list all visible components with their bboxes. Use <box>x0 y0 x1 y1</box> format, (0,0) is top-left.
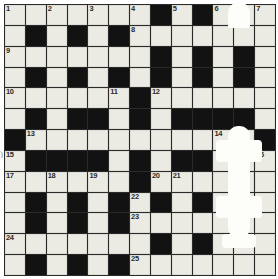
crossword-cell-open[interactable] <box>172 88 192 108</box>
crossword-cell-open[interactable] <box>130 68 150 88</box>
crossword-cell-open[interactable] <box>47 26 67 46</box>
crossword-cell-open[interactable] <box>47 255 67 275</box>
crossword-cell-open[interactable] <box>213 213 233 233</box>
crossword-cell-open[interactable] <box>255 213 275 233</box>
crossword-cell-open[interactable] <box>193 26 213 46</box>
crossword-cell-open[interactable] <box>109 172 129 192</box>
crossword-cell-open[interactable] <box>88 193 108 213</box>
crossword-cell-open[interactable] <box>213 172 233 192</box>
crossword-cell-open[interactable] <box>151 109 171 129</box>
crossword-cell-open[interactable] <box>213 88 233 108</box>
crossword-cell-open[interactable]: 6 <box>213 5 233 25</box>
crossword-cell-open[interactable] <box>172 213 192 233</box>
crossword-cell-open[interactable]: 16 <box>255 151 275 171</box>
crossword-cell-open[interactable] <box>255 26 275 46</box>
crossword-cell-open[interactable] <box>193 213 213 233</box>
crossword-cell-open[interactable] <box>151 26 171 46</box>
crossword-cell-open[interactable] <box>88 234 108 254</box>
crossword-cell-open[interactable] <box>193 255 213 275</box>
crossword-cell-open[interactable] <box>5 109 25 129</box>
crossword-cell-open[interactable] <box>26 47 46 67</box>
crossword-cell-open[interactable]: 3 <box>88 5 108 25</box>
crossword-cell-open[interactable] <box>47 109 67 129</box>
crossword-cell-open[interactable] <box>172 26 192 46</box>
crossword-cell-open[interactable] <box>234 26 254 46</box>
crossword-cell-open[interactable] <box>68 47 88 67</box>
crossword-cell-open[interactable] <box>88 47 108 67</box>
crossword-cell-open[interactable] <box>255 193 275 213</box>
crossword-cell-open[interactable] <box>213 193 233 213</box>
crossword-cell-open[interactable] <box>130 47 150 67</box>
crossword-cell-open[interactable] <box>234 255 254 275</box>
crossword-cell-open[interactable] <box>47 193 67 213</box>
crossword-cell-open[interactable] <box>130 234 150 254</box>
crossword-cell-open[interactable] <box>88 26 108 46</box>
crossword-cell-open[interactable] <box>255 47 275 67</box>
crossword-cell-open[interactable] <box>109 151 129 171</box>
crossword-cell-open[interactable] <box>255 255 275 275</box>
crossword-cell-open[interactable] <box>234 172 254 192</box>
crossword-cell-open[interactable]: 17 <box>5 172 25 192</box>
crossword-cell-open[interactable]: 2 <box>47 5 67 25</box>
crossword-cell-open[interactable] <box>213 47 233 67</box>
crossword-grid-container[interactable]: 1234567891011121314151617181920212223242… <box>4 4 276 276</box>
crossword-cell-open[interactable] <box>213 255 233 275</box>
crossword-cell-open[interactable] <box>68 5 88 25</box>
crossword-cell-open[interactable] <box>151 213 171 233</box>
crossword-cell-open[interactable] <box>47 68 67 88</box>
crossword-cell-open[interactable] <box>5 193 25 213</box>
crossword-cell-open[interactable] <box>234 234 254 254</box>
crossword-cell-open[interactable] <box>68 172 88 192</box>
crossword-cell-open[interactable]: 18 <box>47 172 67 192</box>
crossword-cell-open[interactable] <box>151 151 171 171</box>
crossword-cell-open[interactable] <box>5 68 25 88</box>
crossword-cell-open[interactable] <box>68 234 88 254</box>
crossword-cell-open[interactable]: 22 <box>130 193 150 213</box>
crossword-cell-open[interactable] <box>234 213 254 233</box>
crossword-cell-open[interactable] <box>47 88 67 108</box>
crossword-cell-open[interactable] <box>26 88 46 108</box>
crossword-cell-open[interactable]: 20 <box>151 172 171 192</box>
crossword-cell-open[interactable] <box>255 88 275 108</box>
crossword-cell-open[interactable] <box>109 234 129 254</box>
crossword-cell-open[interactable]: 10 <box>5 88 25 108</box>
crossword-cell-open[interactable]: 15 <box>5 151 25 171</box>
crossword-cell-open[interactable] <box>255 172 275 192</box>
crossword-cell-open[interactable] <box>109 47 129 67</box>
crossword-cell-open[interactable] <box>255 68 275 88</box>
crossword-cell-open[interactable] <box>172 47 192 67</box>
crossword-cell-open[interactable]: 14 <box>213 130 233 150</box>
crossword-cell-open[interactable] <box>172 255 192 275</box>
crossword-cell-open[interactable] <box>193 130 213 150</box>
crossword-cell-open[interactable]: 24 <box>5 234 25 254</box>
crossword-cell-open[interactable] <box>5 26 25 46</box>
crossword-cell-open[interactable] <box>213 68 233 88</box>
crossword-cell-open[interactable] <box>234 5 254 25</box>
crossword-cell-open[interactable] <box>151 255 171 275</box>
crossword-cell-open[interactable] <box>88 213 108 233</box>
crossword-grid[interactable]: 1234567891011121314151617181920212223242… <box>4 4 276 276</box>
crossword-cell-open[interactable] <box>109 130 129 150</box>
crossword-cell-open[interactable]: 13 <box>26 130 46 150</box>
crossword-cell-open[interactable] <box>5 255 25 275</box>
crossword-cell-open[interactable] <box>234 88 254 108</box>
crossword-cell-open[interactable] <box>172 193 192 213</box>
crossword-cell-open[interactable]: 25 <box>130 255 150 275</box>
crossword-cell-open[interactable] <box>68 130 88 150</box>
crossword-cell-open[interactable]: 5 <box>172 5 192 25</box>
crossword-cell-open[interactable] <box>234 151 254 171</box>
crossword-cell-open[interactable] <box>234 130 254 150</box>
crossword-cell-open[interactable] <box>47 213 67 233</box>
crossword-cell-open[interactable] <box>234 193 254 213</box>
crossword-cell-open[interactable]: 19 <box>88 172 108 192</box>
crossword-cell-open[interactable] <box>255 234 275 254</box>
crossword-cell-open[interactable] <box>193 172 213 192</box>
crossword-cell-open[interactable] <box>88 88 108 108</box>
crossword-cell-open[interactable] <box>109 5 129 25</box>
crossword-cell-open[interactable] <box>130 130 150 150</box>
crossword-cell-open[interactable] <box>88 255 108 275</box>
crossword-cell-open[interactable] <box>47 47 67 67</box>
crossword-cell-open[interactable] <box>109 109 129 129</box>
crossword-cell-open[interactable]: 21 <box>172 172 192 192</box>
crossword-cell-open[interactable]: 9 <box>5 47 25 67</box>
